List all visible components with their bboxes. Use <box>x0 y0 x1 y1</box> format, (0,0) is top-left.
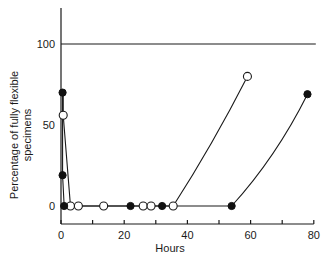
filled-circle-marker <box>228 202 235 209</box>
axes <box>61 8 314 224</box>
open-circle-marker <box>100 202 108 210</box>
y-axis-label-line: Percentage of fully flexible <box>8 71 20 199</box>
x-tick-labels: 020406080 <box>58 229 320 241</box>
filled-circle-marker <box>304 91 311 98</box>
series-lines <box>63 76 308 206</box>
series-markers <box>59 72 311 210</box>
x-tick-label: 20 <box>118 229 130 241</box>
y-tick-label: 0 <box>49 200 55 212</box>
filled-circle-marker <box>61 202 68 209</box>
chart: 020406080 050100 Hours Percentage of ful… <box>0 0 326 259</box>
open-circle-marker <box>243 72 251 80</box>
open-circle-marker <box>147 202 155 210</box>
filled-circle-marker <box>59 172 66 179</box>
open-circle-marker <box>139 202 147 210</box>
x-tick-label: 0 <box>58 229 64 241</box>
filled-circle-marker <box>159 202 166 209</box>
open-series-line <box>63 76 247 206</box>
open-circle-marker <box>74 202 82 210</box>
y-axis-label-line: specimens <box>21 108 33 161</box>
open-circle-marker <box>169 202 177 210</box>
open-circle-marker <box>59 111 67 119</box>
filled-circle-marker <box>127 202 134 209</box>
y-axis-label: Percentage of fully flexiblespecimens <box>8 71 33 199</box>
filled-series-line <box>63 93 308 206</box>
x-tick-label: 80 <box>308 229 320 241</box>
y-tick-label: 100 <box>37 38 55 50</box>
x-tick-label: 60 <box>244 229 256 241</box>
filled-circle-marker <box>59 89 66 96</box>
x-tick-label: 40 <box>181 229 193 241</box>
y-tick-label: 50 <box>43 119 55 131</box>
y-tick-labels: 050100 <box>37 38 55 212</box>
x-axis-label: Hours <box>155 242 185 254</box>
